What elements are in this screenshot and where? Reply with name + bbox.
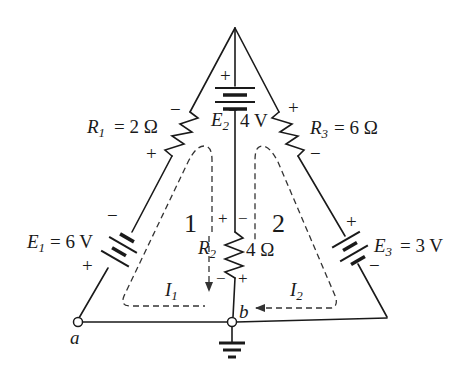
circuit-diagram: + E2 − 4 V R1 = 2 Ω − + + R3 = 6 Ω − − E… xyxy=(0,0,462,385)
r3-value: = 6 Ω xyxy=(334,117,378,138)
r3-label: R3 xyxy=(309,117,329,141)
circuit-svg: + E2 − 4 V R1 = 2 Ω − + + R3 = 6 Ω − − E… xyxy=(0,0,462,385)
arrow-down-icon xyxy=(205,282,213,292)
r2-plus-top: + xyxy=(218,209,228,228)
resistor-r3 xyxy=(272,112,304,156)
e1-plus-sign: + xyxy=(82,255,93,276)
r1-minus-sign: − xyxy=(170,99,181,120)
e1-label: E1 xyxy=(26,231,45,255)
loop-1-number: 1 xyxy=(184,209,197,238)
e2-minus-sign: − xyxy=(228,101,238,120)
current-i1-label: I1 xyxy=(164,279,178,303)
r3-minus-sign: − xyxy=(310,143,321,164)
arrow-left-icon xyxy=(255,304,265,312)
r1-label: R1 xyxy=(86,116,105,140)
battery-e1 xyxy=(101,230,141,267)
ground-icon xyxy=(219,343,245,357)
battery-e3 xyxy=(332,232,372,269)
e2-plus-sign: + xyxy=(220,65,231,86)
e1-value: = 6 V xyxy=(50,231,93,252)
node-a xyxy=(74,318,83,327)
e3-minus-sign: − xyxy=(369,255,380,276)
wire-left-middle xyxy=(132,156,172,232)
e3-plus-sign: + xyxy=(346,211,357,232)
e1-minus-sign: − xyxy=(107,205,118,226)
e3-value: = 3 V xyxy=(400,235,443,256)
wire-middle-bottom xyxy=(233,278,235,317)
wire-right-middle xyxy=(298,156,345,236)
current-i2-label: I2 xyxy=(289,279,303,303)
node-a-label: a xyxy=(70,327,80,348)
r2-value: 4 Ω xyxy=(246,239,274,260)
r2-plus-bottom: + xyxy=(238,269,248,288)
r2-minus-top: − xyxy=(238,209,248,228)
r1-plus-sign: + xyxy=(146,143,157,164)
r2-minus-bottom: − xyxy=(216,269,226,288)
r1-value: = 2 Ω xyxy=(114,116,158,137)
e2-label: E2 xyxy=(210,109,230,133)
node-b xyxy=(228,318,237,327)
wire-bottom-right xyxy=(236,318,387,322)
node-b-label: b xyxy=(239,301,249,322)
r2-label: R2 xyxy=(197,237,217,261)
loop-2-number: 2 xyxy=(272,209,285,238)
e2-value: 4 V xyxy=(240,110,268,131)
wire-right-upper xyxy=(235,28,279,112)
r3-plus-sign: + xyxy=(288,97,299,118)
